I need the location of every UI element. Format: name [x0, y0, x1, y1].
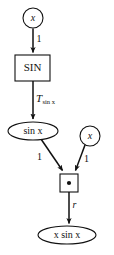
node-input-x-right[interactable]: x — [80, 126, 100, 146]
edge-label-multiply-to-result: r — [73, 199, 77, 210]
computation-graph-diagram: 1 T sin x 1 1 r x SIN sin — [0, 0, 114, 255]
result-label-text: x sin x — [54, 229, 81, 240]
edge-label-sinx-to-multiply: 1 — [37, 151, 42, 162]
node-input-x-top[interactable]: x — [23, 8, 43, 28]
graph-canvas: 1 T sin x 1 1 r x SIN sin — [0, 0, 114, 255]
edge-sinx-to-multiply — [41, 139, 63, 171]
edge-label-T-subscript: sin x — [43, 98, 56, 105]
edge-label-xright-to-multiply: 1 — [84, 153, 89, 164]
multiply-dot-icon — [67, 181, 71, 185]
input-x-top-label: x — [30, 12, 36, 23]
sin-x-value-label-text: sin x — [23, 125, 42, 136]
edge-label-x-to-sin: 1 — [37, 33, 42, 44]
node-result-x-sin-x[interactable]: x sin x — [38, 226, 96, 244]
edge-label-sin-to-sinx: T sin x — [36, 92, 56, 106]
sin-operator-label: SIN — [24, 61, 42, 73]
node-sin-operator[interactable]: SIN — [15, 55, 50, 81]
result-label: x sin x — [54, 229, 81, 240]
node-multiply-operator[interactable] — [60, 174, 78, 192]
node-sin-x-value[interactable]: sin x — [8, 122, 58, 140]
input-x-right-label: x — [87, 130, 93, 141]
sin-x-value-label: sin x — [23, 125, 42, 136]
